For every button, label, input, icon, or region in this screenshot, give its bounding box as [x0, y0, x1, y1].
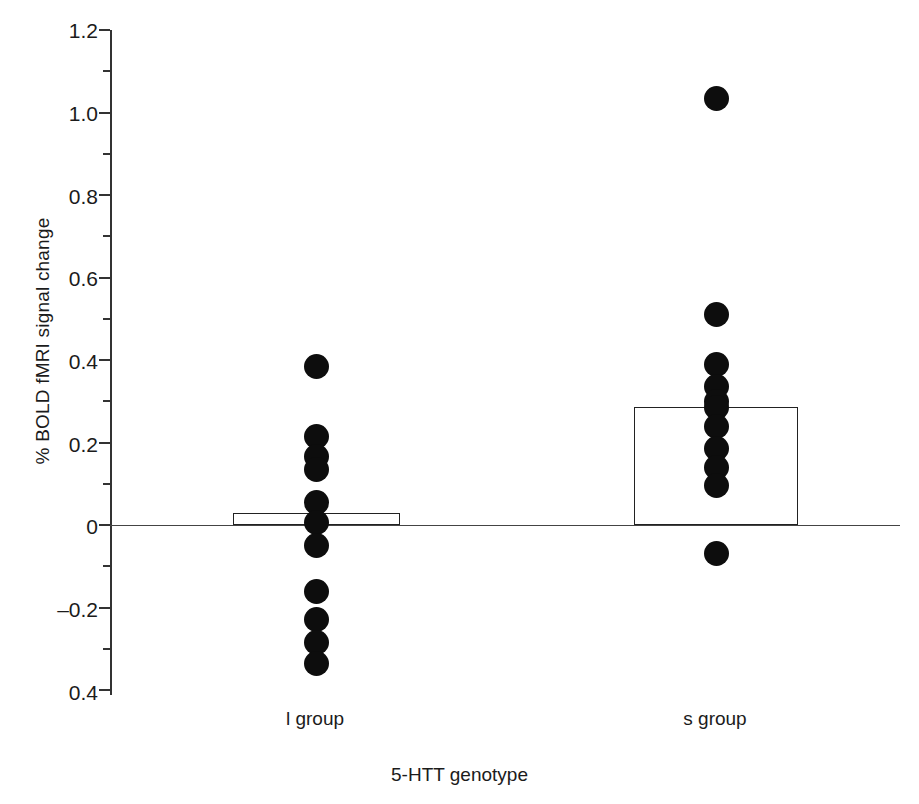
data-point	[304, 510, 329, 535]
y-tick-label-1-2: 1.2	[24, 20, 98, 41]
y-tick-major-neg0p4	[99, 689, 110, 691]
y-tick-label-0-6: 0.6	[24, 268, 98, 289]
y-axis-spine	[110, 30, 112, 695]
y-tick-label-0-2: 0.2	[24, 434, 98, 455]
data-point	[704, 352, 729, 377]
y-tick-major-neg0p2	[99, 607, 110, 609]
data-point	[304, 607, 329, 632]
data-point	[704, 473, 729, 498]
x-tick-label-l-group: l group	[215, 708, 415, 730]
y-tick-label-neg-0-2: –0.2	[24, 599, 98, 620]
data-point	[304, 651, 329, 676]
y-tick-label-0: 0	[24, 516, 98, 537]
y-tick-minor	[103, 565, 110, 567]
data-point	[704, 302, 729, 327]
figure-canvas: % BOLD fMRI signal change 1.2 1.0 0.8 0.…	[0, 0, 919, 804]
data-point	[704, 86, 729, 111]
y-tick-minor	[103, 153, 110, 155]
y-tick-major-0p6	[99, 277, 110, 279]
y-tick-minor	[103, 235, 110, 237]
data-point	[704, 414, 729, 439]
y-tick-minor	[103, 648, 110, 650]
y-tick-major-0	[99, 524, 110, 526]
data-point	[304, 533, 329, 558]
data-point	[304, 579, 329, 604]
y-tick-major-1	[99, 112, 110, 114]
y-tick-label-0-4: 0.4	[24, 351, 98, 372]
y-tick-major-1p2	[99, 29, 110, 31]
y-tick-label-1-0: 1.0	[24, 103, 98, 124]
data-point	[704, 541, 729, 566]
y-tick-minor	[103, 400, 110, 402]
y-tick-minor	[103, 70, 110, 72]
plot-area	[110, 0, 900, 690]
y-tick-major-0p2	[99, 442, 110, 444]
y-tick-major-0p4	[99, 359, 110, 361]
y-tick-minor	[103, 483, 110, 485]
x-tick-label-s-group: s group	[615, 708, 815, 730]
x-axis-label: 5-HTT genotype	[0, 764, 919, 786]
y-tick-minor	[103, 318, 110, 320]
y-tick-label-group: 1.2 1.0 0.8 0.6 0.4 0.2 0 –0.2 0.4	[24, 0, 98, 804]
data-point	[304, 354, 329, 379]
y-tick-label-neg-0-4: 0.4	[24, 682, 98, 703]
zero-baseline	[110, 525, 900, 526]
y-tick-label-0-8: 0.8	[24, 186, 98, 207]
data-point	[304, 457, 329, 482]
y-tick-major-0p8	[99, 194, 110, 196]
